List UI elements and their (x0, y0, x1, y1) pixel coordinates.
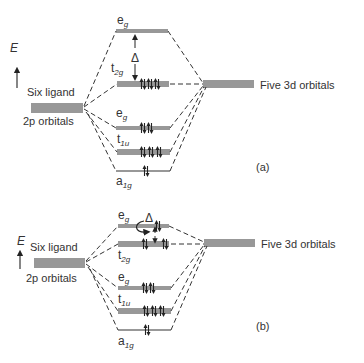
mo-diagram: E Six ligand 2p orbitals Five 3d orbital… (0, 0, 364, 363)
t2g-label: t2g (111, 61, 124, 77)
eg-upper-label-b: eg (118, 208, 130, 224)
eg-lower-level (116, 127, 170, 129)
metal-3d-label: Five 3d orbitals (260, 79, 335, 91)
metal-3d-levels (203, 81, 254, 87)
panel-a-tag: (a) (256, 161, 269, 173)
metal-3d-levels-b (204, 240, 255, 246)
delta-label-b: Δ (145, 211, 153, 225)
eg-upper-electrons-b (155, 220, 162, 232)
correlation-lines-ligand (84, 31, 117, 171)
correlation-lines-ligand-b (86, 226, 118, 330)
ligand-label-line2-b: 2p orbitals (26, 272, 77, 284)
correlation-lines-metal (168, 31, 206, 171)
energy-axis-label-b: E (17, 234, 26, 248)
eg-upper-level-b (118, 225, 169, 227)
eg-lower-label-b: eg (118, 270, 130, 286)
eg-lower-label: eg (116, 106, 128, 122)
t1u-level (117, 150, 170, 154)
ligand-2p-levels-b (34, 259, 85, 267)
eg-lower-level-b (118, 287, 171, 289)
t1u-label: t1u (117, 132, 130, 148)
ligand-2p-levels (31, 104, 83, 112)
panel-b-tag: (b) (256, 320, 269, 332)
t2g-level (117, 82, 169, 86)
t1u-label-b: t1u (118, 292, 131, 308)
a1g-label-b: a1g (118, 334, 134, 350)
t2g-label-b: t2g (118, 248, 131, 264)
eg-lower-electrons-b (142, 282, 156, 294)
ligand-label-line2: 2p orbitals (23, 115, 74, 127)
ligand-label-line1-b: Six ligand (30, 241, 78, 253)
eg-upper-label: eg (117, 13, 129, 29)
metal-3d-label-b: Five 3d orbitals (261, 238, 336, 250)
energy-axis-label: E (10, 41, 19, 55)
eg-lower-electrons (140, 122, 154, 134)
panel-a: E Six ligand 2p orbitals Five 3d orbital… (10, 13, 335, 190)
delta-label: Δ (131, 51, 139, 65)
correlation-lines-metal-b (169, 226, 207, 330)
a1g-label: a1g (116, 174, 132, 190)
ligand-label-line1: Six ligand (27, 86, 75, 98)
panel-b: E Six ligand 2p orbitals Five 3d orbital… (17, 208, 336, 350)
